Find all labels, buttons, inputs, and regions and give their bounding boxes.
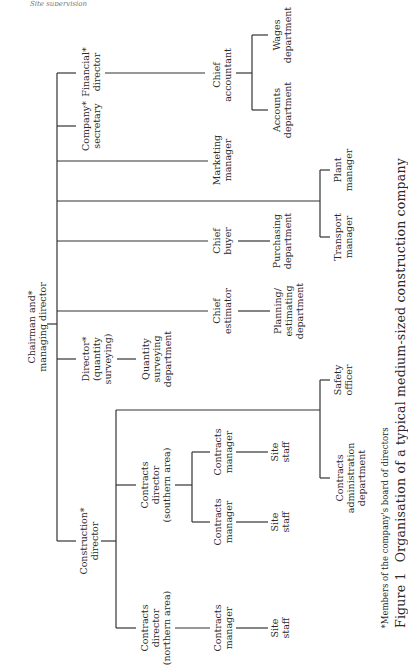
node-purchasing-department: Purchasingdepartment: [271, 213, 293, 269]
node-site-staff-s2: Sitestaff: [269, 511, 291, 532]
node-contracts-director-north: Contractsdirector(northern area): [139, 591, 172, 665]
node-contracts-manager-s2: Contractsmanager: [212, 498, 234, 545]
node-plant-manager: Plantmanager: [332, 149, 354, 192]
node-site-staff-n: Sitestaff: [269, 617, 291, 638]
node-chief-accountant: Chiefaccountant: [211, 48, 233, 102]
node-chief-buyer: Chiefbuyer: [211, 227, 233, 255]
node-financial-director: Financial*director: [80, 47, 102, 96]
node-qs-department: Quantitysurveyingdepartment: [140, 331, 173, 387]
figure-caption: Figure 1Organisation of a typical medium…: [393, 158, 408, 628]
footnote: *Members of the company's board of direc…: [380, 427, 390, 628]
node-transport-manager: Transportmanager: [332, 213, 354, 261]
node-director-qs: Director*(quantitysurveying): [80, 334, 113, 385]
node-contracts-admin: Contractsadministrationdepartment: [334, 443, 367, 514]
node-accounts-department: Accountsdepartment: [271, 82, 293, 138]
figure-number: Figure 1: [393, 572, 408, 628]
node-contracts-manager-s1: Contractsmanager: [212, 428, 234, 475]
node-chairman: Chairman and*managing director: [26, 282, 48, 371]
node-contracts-director-south: Contractsdirector(southern area): [139, 448, 172, 523]
figure-title: Organisation of a typical medium-sized c…: [393, 158, 408, 562]
node-company-secretary: Company*secretary: [80, 101, 102, 151]
node-safety-officer: Safetyofficer: [332, 365, 354, 396]
node-chief-estimator: Chiefestimator: [211, 288, 233, 334]
node-planning-department: Planning/estimatingdepartment: [272, 283, 305, 339]
node-contracts-manager-n: Contractsmanager: [212, 604, 234, 651]
node-construction-director: Construction*director: [78, 507, 100, 574]
node-wages-department: Wagesdepartment: [271, 7, 293, 63]
node-marketing-manager: Marketingmanager: [211, 135, 233, 185]
node-site-staff-s1: Sitestaff: [269, 441, 291, 462]
